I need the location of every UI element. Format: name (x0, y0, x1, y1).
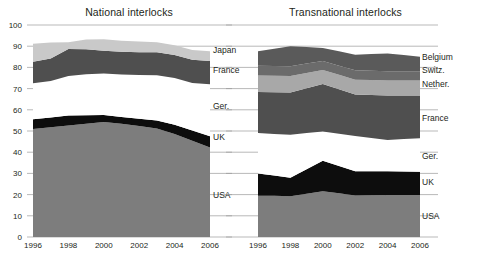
figure-root: National interlocks 01020304050607080901… (0, 0, 477, 263)
series-label-switz: Switz. (422, 65, 445, 75)
y-tick-label: 0 (18, 233, 23, 242)
y-tick-label: 10 (13, 212, 22, 221)
x-tick-label: 2000 (314, 241, 332, 250)
series-label-ger: Ger. (213, 101, 229, 111)
x-tick-label: 1998 (60, 241, 78, 250)
series-label-usa: USA (422, 211, 440, 221)
x-tick-label: 2004 (379, 241, 397, 250)
y-tick-label: 40 (13, 148, 22, 157)
y-tick-label: 30 (13, 169, 22, 178)
chart-national-interlocks: 0102030405060708090100199619982000200220… (0, 0, 240, 263)
series-label-uk: UK (213, 132, 225, 142)
x-tick-label: 1996 (24, 241, 42, 250)
y-tick-label: 100 (9, 21, 23, 30)
x-tick-label: 2000 (95, 241, 113, 250)
y-tick-label: 60 (13, 106, 22, 115)
area-series-usa (33, 122, 210, 237)
series-label-france: France (422, 113, 449, 123)
series-label-france: France (213, 65, 240, 75)
area-series-usa (258, 191, 420, 237)
y-tick-label: 70 (13, 85, 22, 94)
series-label-ger: Ger. (422, 151, 438, 161)
series-label-belgium: Belgium (422, 52, 453, 62)
chart-transnational-interlocks: 199619982000200220042006USAUKGer.FranceN… (240, 0, 477, 263)
x-tick-label: 2006 (201, 241, 219, 250)
series-label-nether: Nether. (422, 79, 449, 89)
panel-national-interlocks: National interlocks 01020304050607080901… (0, 0, 240, 263)
x-tick-label: 1998 (282, 241, 300, 250)
x-tick-label: 2002 (130, 241, 148, 250)
panel-transnational-interlocks: Transnational interlocks 199619982000200… (240, 0, 477, 263)
y-tick-label: 90 (13, 42, 22, 51)
series-label-uk: UK (422, 177, 434, 187)
x-tick-label: 2006 (411, 241, 429, 250)
y-tick-label: 20 (13, 191, 22, 200)
series-label-japan: Japan (213, 45, 236, 55)
y-tick-label: 80 (13, 63, 22, 72)
x-tick-label: 1996 (249, 241, 267, 250)
x-tick-label: 2002 (346, 241, 364, 250)
y-tick-label: 50 (13, 127, 22, 136)
x-tick-label: 2004 (166, 241, 184, 250)
